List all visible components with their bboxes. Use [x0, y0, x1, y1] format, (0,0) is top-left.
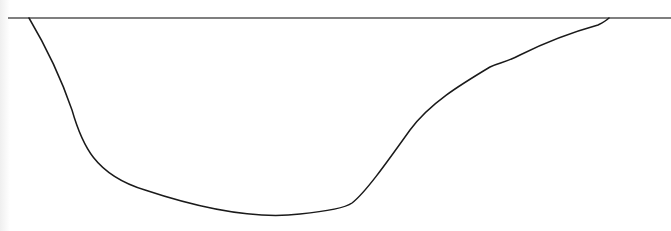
profile-curve: [29, 18, 609, 215]
profile-diagram: [0, 0, 671, 231]
diagram-canvas: [0, 0, 671, 231]
